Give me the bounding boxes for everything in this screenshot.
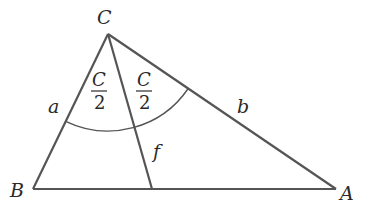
- left-fraction-denominator: 2: [94, 92, 105, 113]
- right-fraction-denominator: 2: [139, 92, 150, 113]
- vertex-b-label: B: [9, 179, 24, 201]
- diagram-svg: C B A a b f C 2 C 2: [0, 0, 365, 211]
- left-fraction-numerator: C: [92, 69, 106, 90]
- side-f-label: f: [151, 140, 163, 162]
- angle-arc: [66, 89, 189, 131]
- triangle-diagram: C B A a b f C 2 C 2: [0, 0, 365, 211]
- side-b-label: b: [237, 95, 249, 117]
- vertex-c-label: C: [97, 6, 112, 28]
- right-fraction-numerator: C: [137, 69, 151, 90]
- left-half-angle-label: C 2: [91, 69, 107, 113]
- side-a-label: a: [48, 95, 59, 117]
- right-half-angle-label: C 2: [136, 69, 152, 113]
- vertex-a-label: A: [338, 182, 354, 204]
